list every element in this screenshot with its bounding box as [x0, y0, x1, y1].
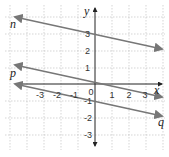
- svg-text:-3: -3: [36, 90, 44, 100]
- svg-text:3: 3: [85, 29, 90, 39]
- svg-text:-1: -1: [84, 96, 92, 106]
- line-n-label: n: [10, 17, 16, 31]
- svg-text:3: 3: [142, 90, 147, 100]
- svg-text:2: 2: [126, 90, 131, 100]
- x-axis-label: x: [153, 83, 160, 97]
- svg-text:-1: -1: [70, 90, 78, 100]
- grid: [5, 5, 165, 150]
- y-axis-label: y: [83, 4, 90, 18]
- line-p-label: p: [9, 66, 16, 80]
- svg-text:-2: -2: [53, 90, 61, 100]
- svg-text:1: 1: [85, 63, 90, 73]
- coordinate-plane: -3 -2 -1 0 1 2 3 3 2 1 -1 -2 -3 y x n p …: [0, 0, 169, 157]
- line-q-label: q: [158, 115, 164, 129]
- svg-text:-2: -2: [84, 113, 92, 123]
- svg-text:-3: -3: [84, 130, 92, 140]
- svg-text:2: 2: [85, 46, 90, 56]
- svg-text:1: 1: [109, 90, 114, 100]
- axes: [18, 8, 162, 146]
